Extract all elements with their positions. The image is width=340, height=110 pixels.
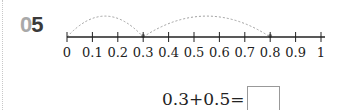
tick-label: 0.9 (285, 45, 306, 60)
number-line: 00.10.20.30.40.50.60.70.80.91 (0, 0, 340, 80)
tick-label: 0.8 (260, 45, 281, 60)
jump-arc (143, 16, 270, 37)
tick-label: 0.4 (158, 45, 179, 60)
jump-arc (67, 16, 143, 37)
tick-label: 0.1 (82, 45, 103, 60)
number-line-labels: 00.10.20.30.40.50.60.70.80.91 (63, 45, 325, 60)
tick-label: 0.3 (133, 45, 154, 60)
equation: 0.3+0.5= (162, 86, 280, 110)
answer-box[interactable] (247, 86, 280, 110)
tick-label: 0.2 (107, 45, 128, 60)
tick-label: 0 (63, 45, 71, 60)
tick-label: 0.5 (184, 45, 205, 60)
tick-label: 0.6 (209, 45, 230, 60)
tick-label: 0.7 (234, 45, 255, 60)
tick-label: 1 (317, 45, 325, 60)
jump-arcs (67, 16, 272, 38)
equation-expression: 0.3+0.5= (162, 89, 245, 109)
